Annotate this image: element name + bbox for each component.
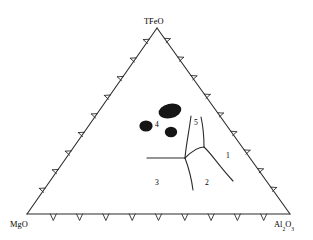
right-axis-line	[157, 28, 290, 214]
data-blob-group	[139, 102, 182, 138]
data-blob	[139, 120, 152, 131]
field-label-1: 1	[226, 144, 230, 162]
vertex-label-al2o3: Al2O3	[274, 213, 294, 232]
boundary-field-3-2	[185, 158, 193, 190]
field-boundary-lines	[147, 116, 233, 190]
tick-mark	[77, 214, 83, 221]
tick-mark	[50, 214, 56, 221]
boundary-field-5-right	[201, 117, 204, 147]
data-blob	[165, 127, 177, 137]
bottom-axis-ticks	[50, 214, 266, 221]
field-label-5: 5	[194, 111, 198, 129]
field-label-2: 2	[205, 171, 209, 189]
left-axis-line	[27, 28, 157, 214]
boundary-field-2-top	[185, 147, 204, 158]
tick-mark	[156, 214, 162, 221]
tick-mark	[208, 214, 214, 221]
data-blob	[157, 102, 182, 121]
field-label-3: 3	[155, 171, 159, 189]
tick-mark	[261, 214, 267, 221]
vertex-label-tfeo: TFeO	[144, 10, 164, 28]
boundary-field-5-left	[185, 116, 191, 158]
tick-mark	[234, 214, 240, 221]
tick-mark	[182, 214, 188, 221]
field-label-4: 4	[155, 113, 159, 131]
tick-mark	[129, 214, 135, 221]
vertex-label-mgo: MgO	[10, 213, 28, 231]
tick-mark	[103, 214, 109, 221]
ternary-diagram-figure: TFeO MgO Al2O3 1 2 3 4 5	[0, 0, 313, 240]
